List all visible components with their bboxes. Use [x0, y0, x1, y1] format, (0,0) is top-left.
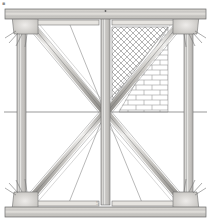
left-post [17, 22, 26, 204]
plate-mark: ■ [2, 1, 5, 7]
right-post [184, 22, 193, 204]
top-rail-right [112, 20, 177, 25]
bottom-rail-left [34, 201, 99, 206]
center-label: 5 [96, 200, 99, 207]
bottom-beam [5, 207, 206, 217]
top-beam [5, 9, 206, 19]
top-rail-left [34, 20, 99, 25]
bottom-rail-right [112, 201, 177, 206]
figure-root: ■ 5 [0, 0, 211, 221]
structural-frame-diagram [0, 0, 211, 221]
center-post [101, 18, 110, 205]
